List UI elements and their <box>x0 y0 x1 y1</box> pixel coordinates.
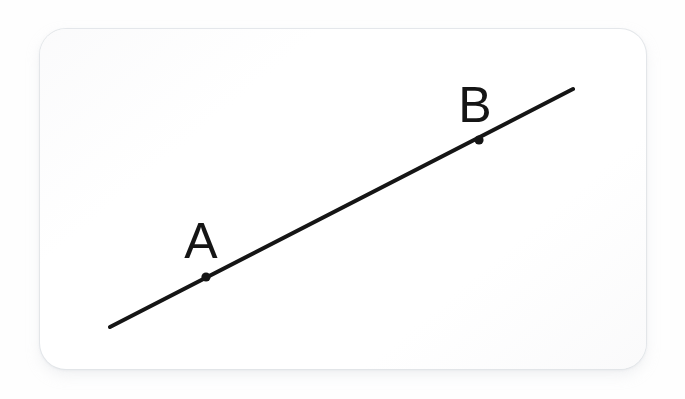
point-b-label: B <box>458 77 491 133</box>
point-b-dot <box>474 135 483 144</box>
line-diagram-svg: A B <box>0 0 685 399</box>
line-segment <box>110 89 573 327</box>
figure-stage: A B <box>0 0 685 399</box>
point-a-label: A <box>184 213 218 269</box>
point-a-dot <box>201 272 210 281</box>
